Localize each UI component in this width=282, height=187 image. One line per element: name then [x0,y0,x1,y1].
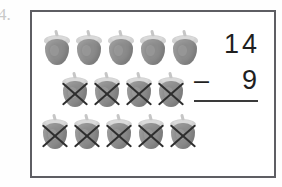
strawberry-counter[interactable] [74,30,104,68]
strawberry-body-icon [77,39,101,65]
strawberry-counter[interactable] [136,114,166,152]
subtrahend-value: 9 [242,67,260,94]
strawberry-counter[interactable] [92,72,122,110]
strawberry-counter[interactable] [42,30,72,68]
counter-row [60,72,188,110]
counter-row [42,30,202,68]
strawberry-body-icon [141,39,165,65]
strawberry-body-icon [63,81,87,107]
strawberry-counter[interactable] [106,30,136,68]
strawberry-counter[interactable] [40,114,70,152]
strawberry-counter[interactable] [104,114,134,152]
counter-row [40,114,200,152]
strawberry-counter[interactable] [60,72,90,110]
strawberry-counter[interactable] [124,72,154,110]
strawberry-body-icon [45,39,69,65]
worksheet-page: 4. [0,0,282,187]
minus-operator-icon: – [194,67,209,94]
problem-number-label: 4. [0,6,11,23]
subtrahend-row: – 9 [192,62,266,98]
strawberry-body-icon [109,39,133,65]
strawberry-body-icon [139,123,163,149]
strawberry-body-icon [159,81,183,107]
strawberry-body-icon [43,123,67,149]
strawberry-counter[interactable] [138,30,168,68]
problem-box: 14 – 9 [30,10,276,178]
minuend-value: 14 [224,31,260,58]
strawberry-body-icon [107,123,131,149]
strawberry-counter[interactable] [156,72,186,110]
strawberry-body-icon [95,81,119,107]
minuend-row: 14 [192,26,266,62]
answer-row[interactable] [192,102,266,132]
strawberry-counter[interactable] [72,114,102,152]
strawberry-body-icon [127,81,151,107]
strawberry-body-icon [75,123,99,149]
counters-area [36,18,202,174]
subtraction-equation: 14 – 9 [192,26,266,136]
